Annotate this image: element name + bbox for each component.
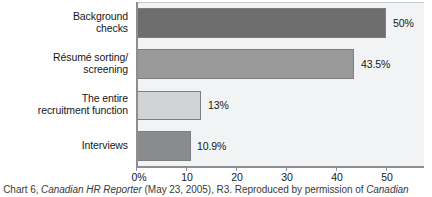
source-caption-prefix: rce: Chart 6, (0, 184, 41, 195)
x-axis-line (136, 166, 424, 168)
category-axis-labels: Background checks Résumé sorting/ screen… (0, 2, 132, 166)
x-tick-label-50: 50 (381, 171, 392, 183)
source-caption-publication: Canadian HR Reporter (41, 184, 142, 195)
category-label-line: Interviews (0, 139, 128, 151)
source-caption-publisher: Canadian (366, 184, 408, 195)
source-caption-middle: (May 23, 2005), R3. Reproduced by permis… (142, 184, 366, 195)
category-label-line: The entire (0, 92, 128, 104)
x-tick-label-20: 20 (231, 171, 242, 183)
bar-chart-figure: Background checks Résumé sorting/ screen… (0, 0, 432, 197)
category-label-background-checks: Background checks (0, 10, 128, 34)
source-caption: rce: Chart 6, Canadian HR Reporter (May … (0, 184, 432, 196)
bar-background-checks[interactable] (136, 8, 386, 38)
x-tick-label-30: 30 (281, 171, 292, 183)
bar-value-interviews: 10.9% (197, 141, 226, 152)
bar-value-background-checks: 50% (393, 18, 414, 29)
category-label-line: screening (0, 63, 128, 75)
bar-value-entire-recruitment-function: 13% (208, 100, 229, 111)
category-label-entire-recruitment-function: The entire recruitment function (0, 92, 128, 116)
y-axis-line (136, 2, 138, 168)
bar-resume-sorting[interactable] (136, 49, 354, 79)
x-tick-label-40: 40 (331, 171, 342, 183)
x-tick-label-10: 10 (181, 171, 192, 183)
category-label-resume-sorting: Résumé sorting/ screening (0, 51, 128, 75)
category-label-line: checks (0, 22, 128, 34)
bar-interviews[interactable] (136, 131, 191, 161)
category-label-line: recruitment function (0, 104, 128, 116)
x-tick-label-0: 0% (132, 171, 147, 183)
category-label-line: Résumé sorting/ (0, 51, 128, 63)
bar-entire-recruitment-function[interactable] (136, 91, 201, 120)
category-label-line: Background (0, 10, 128, 22)
bar-value-resume-sorting: 43.5% (361, 59, 390, 70)
category-label-interviews: Interviews (0, 139, 128, 151)
